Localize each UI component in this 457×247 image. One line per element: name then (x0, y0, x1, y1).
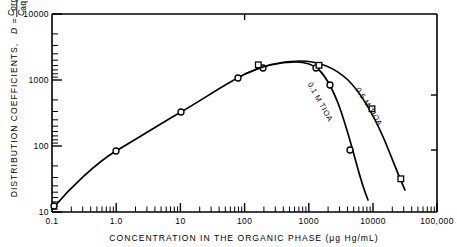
x-tick-label: 0.1 (45, 216, 58, 226)
data-point (113, 148, 119, 154)
data-point (51, 203, 57, 209)
x-tick-label: 1000 (299, 216, 320, 226)
x-tick-label: 100,000 (420, 216, 454, 226)
y-axis-title-symbol: D = (9, 17, 19, 34)
data-point (235, 75, 241, 81)
curve-path-05m (245, 61, 405, 190)
y-axis-tick-labels: 10000 1000 100 10 (23, 9, 49, 217)
y-axis-title: DISTRIBUTION COEFFICIENTS, D = C org C a… (6, 0, 28, 197)
series-0.1-m-tioa: 0.1 M TIOA (51, 62, 368, 209)
data-point (347, 147, 353, 153)
x-tick-label: 100 (237, 216, 252, 226)
chart-figure: 10000 1000 100 10 DISTRIBUTION COEFFICIE… (0, 0, 457, 247)
x-tick-label: 10 (175, 216, 185, 226)
y-axis-title-text: DISTRIBUTION COEFFICIENTS, (9, 43, 19, 197)
series-0.5-m-tioa: 0.5 M TIOA (245, 61, 405, 190)
curve-label-05m-text: 0.5 M TIOA (354, 86, 385, 128)
fraction-denominator-sub: aq (18, 1, 28, 11)
data-point (398, 176, 404, 182)
y-tick-label: 1000 (28, 75, 49, 85)
x-tick-label: 1.0 (110, 216, 123, 226)
chart-svg: 10000 1000 100 10 DISTRIBUTION COEFFICIE… (0, 0, 457, 247)
y-axis-ticks (52, 14, 62, 212)
x-axis-tick-labels: 0.1 1.0 10 100 1000 10000 100,000 (45, 216, 453, 226)
x-tick-label: 10000 (360, 216, 386, 226)
data-point (256, 62, 262, 68)
y-tick-label: 100 (34, 141, 49, 151)
curve-path-01m (54, 62, 368, 207)
x-axis-title: CONCENTRATION IN THE ORGANIC PHASE (μg H… (109, 233, 378, 243)
data-point (316, 63, 322, 69)
y-axis-title-fraction: C org C aq (6, 0, 28, 17)
curve-label-05m: 0.5 M TIOA (354, 86, 385, 128)
data-point (178, 109, 184, 115)
data-point (327, 82, 333, 88)
